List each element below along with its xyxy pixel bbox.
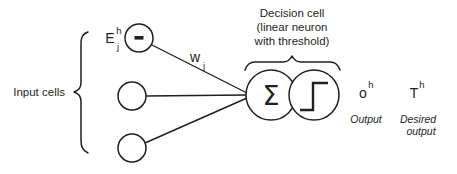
input-cell-middle[interactable] bbox=[118, 82, 146, 110]
desired-output-caption-line2: output bbox=[406, 125, 436, 137]
input-activation-symbol-subscript: j bbox=[116, 41, 119, 52]
summation-symbol: Σ bbox=[262, 80, 279, 111]
perceptron-diagram: Σ Input cells Decision cell (linear neur… bbox=[0, 0, 457, 174]
input-activation-symbol-base: E bbox=[105, 30, 114, 46]
output-symbol-base: o bbox=[359, 85, 367, 101]
target-symbol-superscript: h bbox=[419, 79, 424, 90]
edge-middle-to-sum bbox=[146, 95, 246, 96]
input-cells-brace bbox=[74, 32, 88, 153]
desired-output-caption-line1: Desired bbox=[400, 113, 437, 125]
weight-symbol-subscript: j bbox=[202, 60, 205, 71]
activation-marker-icon bbox=[135, 36, 144, 40]
decision-cell-title-line1: Decision cell bbox=[260, 7, 325, 19]
output-symbol-superscript: h bbox=[368, 79, 373, 90]
target-symbol-base: T bbox=[410, 85, 419, 101]
weight-symbol-base: w bbox=[189, 49, 201, 65]
decision-cell-title-line3: with threshold) bbox=[254, 35, 330, 47]
decision-cell-title-line2: (linear neuron bbox=[257, 21, 328, 33]
edge-bottom-to-sum bbox=[145, 98, 247, 143]
decision-cell-brace bbox=[245, 56, 340, 70]
input-activation-symbol-superscript: h bbox=[116, 25, 121, 36]
input-cell-bottom[interactable] bbox=[118, 134, 146, 162]
input-cells-label: Input cells bbox=[13, 86, 65, 98]
diagram-canvas: Σ Input cells Decision cell (linear neur… bbox=[0, 0, 457, 174]
output-caption: Output bbox=[350, 113, 383, 125]
